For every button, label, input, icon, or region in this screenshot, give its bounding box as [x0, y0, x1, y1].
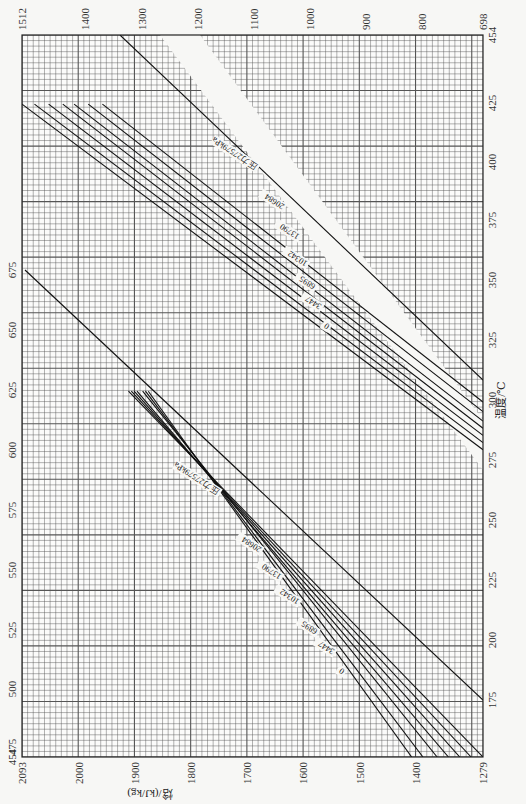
top-tick-label: 1000 [304, 8, 316, 31]
left-tick-label: 625 [6, 381, 18, 398]
right-tick-label: 400 [486, 153, 498, 170]
bottom-tick-label: 1400 [410, 762, 422, 785]
left-tick-label: 600 [6, 441, 18, 458]
left-tick-label: 650 [6, 321, 18, 338]
left-tick-label: 500 [6, 680, 18, 697]
right-tick-label: 425 [486, 94, 498, 111]
right-tick-label: 175 [486, 691, 498, 708]
enthalpy-temperature-chart: 1512140013001200110010009008006982093200… [0, 0, 526, 804]
top-tick-label: 1300 [136, 8, 148, 31]
right-tick-label: 454 [486, 26, 498, 43]
bottom-tick-label: 1279 [477, 762, 489, 785]
top-tick-label: 1512 [16, 8, 28, 30]
top-tick-label: 1400 [79, 8, 91, 31]
right-tick-label: 350 [486, 271, 498, 288]
left-tick-label: 454 [6, 748, 18, 765]
y-axis-title: 焓/(kJ/kg) [127, 787, 173, 801]
left-tick-label: 525 [6, 621, 18, 638]
right-tick-label: 275 [486, 451, 498, 468]
bottom-tick-label: 1500 [354, 762, 366, 785]
bottom-tick-label: 1800 [185, 762, 197, 785]
top-tick-label: 1100 [248, 8, 260, 30]
bottom-tick-label: 1700 [241, 762, 253, 785]
top-tick-label: 1200 [192, 8, 204, 31]
right-tick-label: 375 [486, 211, 498, 228]
left-tick-label: 575 [6, 501, 18, 518]
right-tick-label: 225 [486, 571, 498, 588]
top-tick-label: 900 [360, 13, 372, 30]
left-tick-label: 550 [6, 561, 18, 578]
right-tick-label: 200 [486, 631, 498, 648]
left-tick-label: 675 [6, 261, 18, 278]
bottom-tick-label: 1600 [297, 762, 309, 785]
right-tick-label: 325 [486, 331, 498, 348]
top-tick-label: 800 [416, 13, 428, 30]
x-axis-title: 温度/℃ [494, 381, 507, 418]
right-tick-label: 250 [486, 511, 498, 528]
bottom-tick-label: 1900 [129, 762, 141, 785]
bottom-tick-label: 2000 [73, 762, 85, 785]
